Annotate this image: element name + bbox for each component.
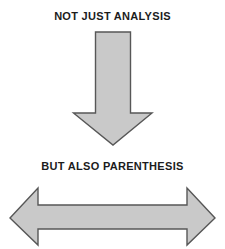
diagram-canvas: NOT JUST ANALYSIS BUT ALSO PARENTHESIS <box>0 0 225 249</box>
left-right-double-arrow-icon <box>0 183 225 249</box>
double-arrow-shape <box>10 188 215 245</box>
caption-not-just-analysis: NOT JUST ANALYSIS <box>0 10 225 22</box>
down-arrow-icon <box>0 26 225 152</box>
caption-but-also-parenthesis: BUT ALSO PARENTHESIS <box>0 160 225 172</box>
down-arrow-shape <box>74 32 153 145</box>
